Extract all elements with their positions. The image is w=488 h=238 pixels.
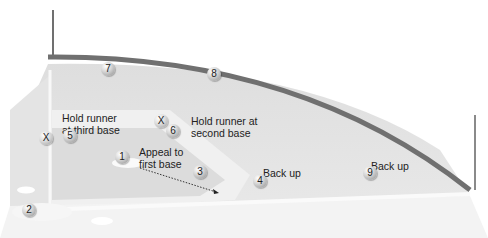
fielder-1-marker: 1	[115, 150, 129, 164]
label-appeal-first: Appeal tofirst base	[139, 146, 183, 170]
fielder-5-marker: 5	[63, 129, 77, 143]
third-base	[17, 187, 35, 194]
fielder-8-marker: 8	[207, 67, 221, 81]
fielder-4-marker: 4	[253, 174, 267, 188]
runner-x-icon: X	[39, 131, 53, 145]
fielder-2-marker: 2	[22, 203, 36, 217]
label-line: Back up	[263, 167, 301, 179]
label-line: first base	[139, 158, 183, 170]
label-line: second base	[191, 127, 258, 139]
fielder-9-marker: 9	[363, 166, 377, 180]
fielder-3-marker: 3	[193, 165, 207, 179]
label-line: Hold runner	[62, 112, 120, 124]
first-base-pad	[91, 217, 113, 225]
home-plate-area	[12, 203, 72, 221]
label-line: Appeal to	[139, 146, 183, 158]
fielder-6-marker: 6	[166, 124, 180, 138]
runner-x-icon: X	[154, 114, 168, 128]
label-line: Hold runner at	[191, 115, 258, 127]
label-hold-second: Hold runner atsecond base	[191, 115, 258, 139]
fielder-7-marker: 7	[101, 62, 115, 76]
label-backup-4: Back up	[263, 167, 301, 179]
